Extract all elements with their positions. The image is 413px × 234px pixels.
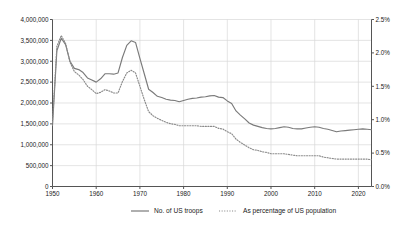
y-axis-tick-label: 1,500,000 xyxy=(20,120,49,127)
x-axis-tick-label: 1980 xyxy=(177,190,192,197)
line-chart: 0500,0001,000,0001,500,0002,000,0002,500… xyxy=(0,0,413,234)
chart-background xyxy=(0,0,413,234)
x-axis-tick-label: 2020 xyxy=(351,190,366,197)
x-axis-tick-label: 2010 xyxy=(308,190,323,197)
y2-axis-tick-label: 1.0% xyxy=(376,116,391,123)
legend-label-percentage: As percentage of US population xyxy=(243,207,336,215)
y2-axis-tick-label: 2.0% xyxy=(376,49,391,56)
y-axis-tick-label: 3,000,000 xyxy=(20,58,49,65)
x-axis-tick-label: 1970 xyxy=(133,190,148,197)
y-axis-tick-label: 4,000,000 xyxy=(20,16,49,23)
y-axis-tick-label: 0 xyxy=(45,183,49,190)
y2-axis-tick-label: 2.5% xyxy=(376,16,391,23)
y-axis-tick-label: 3,500,000 xyxy=(20,37,49,44)
y-axis-tick-label: 2,500,000 xyxy=(20,78,49,85)
y-axis-tick-labels: 0500,0001,000,0001,500,0002,000,0002,500… xyxy=(20,16,52,190)
y-axis-tick-label: 500,000 xyxy=(26,162,49,169)
y-axis-tick-label: 2,000,000 xyxy=(20,99,49,106)
y2-axis-tick-label: 1.5% xyxy=(376,83,391,90)
x-axis-tick-label: 1960 xyxy=(89,190,104,197)
y2-axis-tick-label: 0.5% xyxy=(376,149,391,156)
x-axis-tick-label: 1990 xyxy=(220,190,235,197)
x-axis-tick-label: 2000 xyxy=(264,190,279,197)
y-axis-tick-label: 1,000,000 xyxy=(20,141,49,148)
chart-container: 0500,0001,000,0001,500,0002,000,0002,500… xyxy=(0,0,413,234)
x-axis-tick-label: 1950 xyxy=(45,190,60,197)
legend-label-troops: No. of US troops xyxy=(154,207,203,215)
y2-axis-tick-label: 0.0% xyxy=(376,183,391,190)
